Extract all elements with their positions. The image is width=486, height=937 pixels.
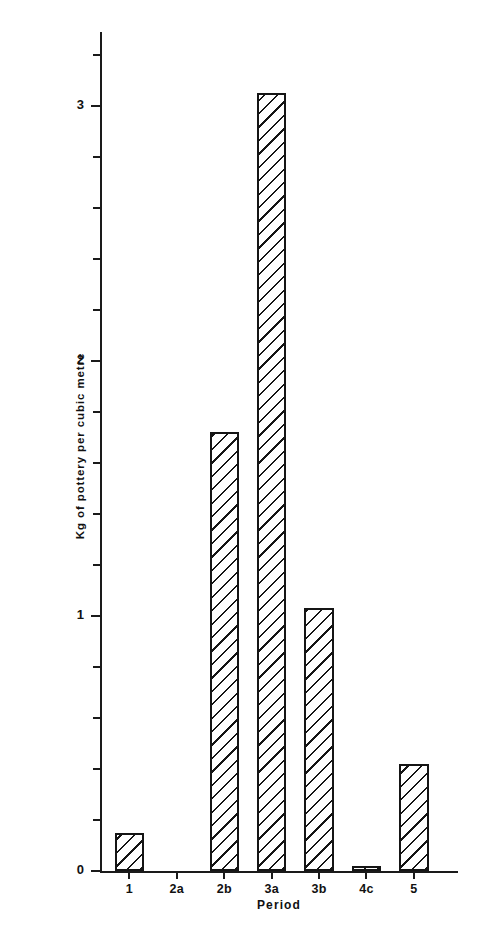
y-axis-minor-tick xyxy=(93,666,100,668)
y-axis-tick-label: 3 xyxy=(64,98,84,111)
x-axis-title: Period xyxy=(100,898,458,912)
bar-4c xyxy=(352,866,381,871)
x-axis-tick xyxy=(176,873,178,879)
y-axis-minor-tick xyxy=(93,207,100,209)
x-axis-tick-label-2b: 2b xyxy=(204,882,244,896)
y-axis-major-tick xyxy=(91,615,100,617)
y-axis-minor-tick xyxy=(93,309,100,311)
bar-2b xyxy=(210,432,239,871)
bar-3b xyxy=(304,608,333,871)
y-axis-minor-tick xyxy=(93,717,100,719)
y-axis-minor-tick xyxy=(93,54,100,56)
x-axis-tick-label-5: 5 xyxy=(394,882,434,896)
bar-1 xyxy=(115,833,144,871)
x-axis-tick-label-2a: 2a xyxy=(157,882,197,896)
y-axis-minor-tick xyxy=(93,819,100,821)
x-axis-tick-label-3a: 3a xyxy=(252,882,292,896)
bar-chart-figure: Kg of pottery per cubic metre 0123 12a2b… xyxy=(0,0,486,937)
y-axis-tick-label: 0 xyxy=(64,863,84,876)
x-axis-tick xyxy=(271,873,273,879)
y-axis-minor-tick xyxy=(93,564,100,566)
y-axis-minor-tick xyxy=(93,156,100,158)
x-axis-tick xyxy=(318,873,320,879)
x-axis-tick xyxy=(223,873,225,879)
bar-5 xyxy=(399,764,428,871)
y-axis-major-tick xyxy=(91,360,100,362)
y-axis-tick-label: 1 xyxy=(64,608,84,621)
x-axis-tick-label-1: 1 xyxy=(109,882,149,896)
plot-area: 0123 12a2b3a3b4c5 xyxy=(100,32,458,872)
x-axis-tick-label-4c: 4c xyxy=(346,882,386,896)
x-axis-tick-label-3b: 3b xyxy=(299,882,339,896)
y-axis-major-tick xyxy=(91,105,100,107)
y-axis-tick-label: 2 xyxy=(64,353,84,366)
x-axis-tick xyxy=(365,873,367,879)
x-axis-tick xyxy=(128,873,130,879)
y-axis-title: Kg of pottery per cubic metre xyxy=(74,296,86,596)
y-axis-minor-tick xyxy=(93,513,100,515)
x-axis-line xyxy=(100,871,458,873)
y-axis-major-tick xyxy=(91,870,100,872)
bar-3a xyxy=(257,93,286,871)
x-axis-tick xyxy=(413,873,415,879)
y-axis-minor-tick xyxy=(93,258,100,260)
y-axis-minor-tick xyxy=(93,768,100,770)
y-axis-line xyxy=(100,32,102,873)
y-axis-minor-tick xyxy=(93,411,100,413)
y-axis-minor-tick xyxy=(93,462,100,464)
